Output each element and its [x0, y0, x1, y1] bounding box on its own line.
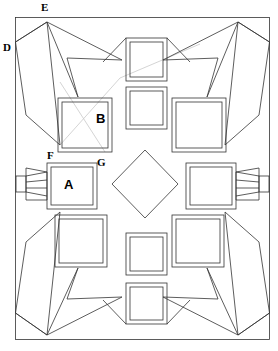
line-bl-e-to-d: [16, 313, 48, 335]
construction-line-upper: [120, 44, 200, 78]
square-right-middle-outer: [186, 163, 236, 209]
top-left-polygon-group: [16, 22, 123, 145]
top-right-polygon-group: [163, 22, 270, 145]
square-bottom-inner-inner: [130, 237, 163, 271]
left-wedge-fan: [16, 168, 47, 200]
square-right-bottom-outer: [172, 215, 224, 267]
square-top-inner-inner: [130, 91, 163, 125]
right-fan-ray-2: [236, 180, 259, 182]
region-label-a: A: [64, 178, 73, 191]
square-left-bottom-inner: [59, 219, 103, 263]
square-top-inner-rect: [126, 87, 167, 129]
line-mid-fan-a: [67, 58, 122, 60]
line-e2-to-b2-corner: [207, 22, 238, 97]
square-right-bottom-inner: [176, 219, 220, 263]
region-label-b: B: [96, 112, 105, 125]
line-mid-fan-b2: [207, 58, 218, 97]
left-wedge-box: [16, 176, 26, 192]
square-left-bottom: [55, 215, 107, 267]
vertex-label-g: G: [97, 157, 106, 168]
right-wedge-fan: [236, 168, 269, 200]
square-bottom-outer-rect: [126, 283, 167, 324]
square-right-top-outer: [172, 98, 226, 152]
vertex-label-e: E: [41, 2, 48, 13]
polygon-dl-quad: [16, 22, 61, 145]
bottom-right-polygon-group: [163, 212, 270, 335]
left-fan-ray-1: [26, 172, 47, 176]
square-right-top-inner: [176, 102, 222, 148]
line-mid-fan-b: [67, 58, 78, 97]
square-bottom-inner-cell: [126, 233, 167, 275]
square-right-middle-inner: [190, 167, 232, 205]
square-top-outer-rect: [126, 38, 167, 81]
line-bl-fan-a: [67, 297, 122, 299]
right-fan-ray-1: [236, 172, 259, 176]
center-diamond: [112, 150, 178, 218]
outer-frame: [16, 18, 270, 340]
square-left-bottom-outer: [55, 215, 107, 267]
right-fan-ray-4: [236, 192, 259, 196]
vertex-label-f: F: [47, 150, 54, 161]
left-fan-ray-4: [26, 192, 47, 196]
line-mid-fan-a2: [163, 58, 218, 60]
square-bottom-outer-cell: [126, 283, 167, 324]
polygon-bl-quad: [16, 212, 61, 335]
left-fan-ray-2: [26, 180, 47, 182]
line-bl-fan-b: [67, 268, 78, 299]
polygon-br-quad: [225, 212, 270, 335]
right-wedge-box: [259, 176, 269, 192]
bottom-left-polygon-group: [16, 212, 123, 335]
line-bl-e-to-corner: [47, 268, 78, 335]
line-e2-to-d2: [238, 22, 270, 42]
line-br-fan-b: [207, 268, 218, 299]
square-top-outer-cell: [126, 38, 167, 81]
top-apex-left: [103, 38, 126, 62]
diagram-canvas: E D F G B A: [0, 0, 278, 351]
polygon-dr-quad: [225, 22, 270, 145]
diagram-vector-layer: [0, 0, 278, 351]
square-cells-group: [47, 38, 236, 324]
construction-line-lower: [60, 78, 120, 145]
line-e2-to-left: [163, 22, 238, 60]
line-e-to-d: [16, 22, 48, 42]
vertex-label-d: D: [3, 42, 11, 53]
square-right-bottom: [172, 215, 224, 267]
line-br-fan-a: [163, 297, 218, 299]
bottom-apex-left: [103, 300, 126, 324]
square-right-middle: [186, 163, 236, 209]
square-right-top: [172, 98, 226, 152]
square-top-inner-cell: [126, 87, 167, 129]
square-bottom-outer-inner: [130, 287, 163, 320]
line-bl-e-to-right: [47, 297, 122, 335]
bottom-apex-right: [167, 300, 190, 324]
line-br-e-to-d: [238, 313, 270, 335]
top-center-lines: [103, 38, 190, 62]
line-br-e-to-corner: [207, 268, 238, 335]
square-bottom-inner-rect: [126, 233, 167, 275]
